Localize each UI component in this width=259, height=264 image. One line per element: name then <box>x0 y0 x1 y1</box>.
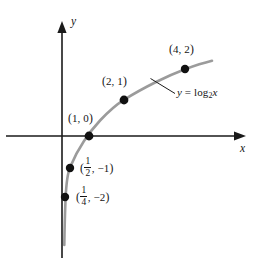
point-marker-4-2 <box>181 65 189 73</box>
point-marker-2-1 <box>120 96 129 105</box>
graph-canvas <box>0 0 259 264</box>
point-label-1-0: (1, 0) <box>68 113 93 125</box>
fraction-one-quarter: 14 <box>80 186 87 207</box>
fraction-one-half: 12 <box>84 157 91 178</box>
logarithm-graph-figure: y x (4, 2) (2, 1) (1, 0) (12, −1) (14, −… <box>0 0 259 264</box>
point-marker-1-0 <box>85 132 94 141</box>
equation-leader-line <box>151 79 176 94</box>
curve-equation-label: y = log2x <box>177 87 217 100</box>
point-label-half-neg1: (12, −1) <box>80 157 113 178</box>
point-label-quarter-neg2: (14, −2) <box>76 186 109 207</box>
point-marker-quarter-neg2 <box>61 193 69 201</box>
y-axis-label: y <box>71 16 76 28</box>
x-axis-label: x <box>240 143 245 155</box>
point-label-4-2: (4, 2) <box>169 44 194 56</box>
point-marker-half-neg1 <box>66 164 74 172</box>
point-label-2-1: (2, 1) <box>102 76 127 88</box>
horizontal-axis <box>6 131 246 140</box>
